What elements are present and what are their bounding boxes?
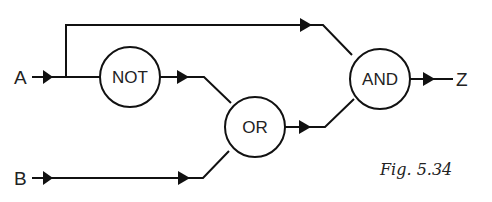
not-gate-label: NOT	[112, 68, 148, 87]
or-gate-label: OR	[242, 118, 268, 137]
figure-caption: Fig. 5.34	[379, 160, 452, 179]
or-to-and-wire	[285, 99, 354, 134]
logic-diagram: NOT OR AND A B Z Fig. 5.34	[0, 0, 492, 202]
input-a-label: A	[14, 67, 27, 88]
or-gate: OR	[225, 97, 285, 157]
input-b-label: B	[14, 168, 27, 189]
output-z-wire	[410, 72, 453, 86]
not-to-or-wire	[160, 70, 231, 103]
input-b-wire	[32, 151, 229, 185]
not-gate: NOT	[100, 47, 160, 107]
and-gate-label: AND	[362, 70, 398, 89]
output-z-label: Z	[456, 69, 468, 90]
and-gate: AND	[350, 49, 410, 109]
